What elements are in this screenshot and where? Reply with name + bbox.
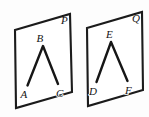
point-label-b: B <box>37 32 44 44</box>
point-label-d: D <box>88 85 97 97</box>
point-label-f: F <box>124 84 132 96</box>
plane-q-group: Q D E F <box>87 12 143 106</box>
point-label-a: A <box>20 88 28 100</box>
plane-label-q: Q <box>132 12 140 24</box>
plane-label-p: P <box>60 14 68 26</box>
geometry-canvas: P A B C Q D E F <box>0 0 149 117</box>
point-label-c: C <box>56 87 64 99</box>
point-label-e: E <box>105 28 113 40</box>
geometry-diagram: P A B C Q D E F <box>0 0 149 117</box>
plane-p-group: P A B C <box>15 14 72 108</box>
